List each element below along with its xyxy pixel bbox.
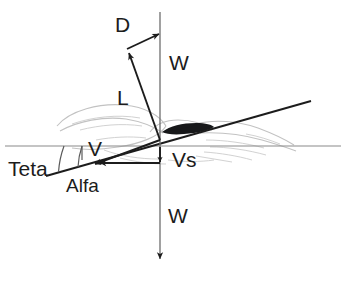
left-wing-feather-streak-2: [80, 125, 142, 130]
weight-lower-label: W: [168, 204, 188, 227]
drag-vector: [127, 34, 159, 49]
lift-vector: [129, 53, 160, 140]
right-wing-lower-edge: [200, 133, 296, 151]
left-wing-upper-edge: [57, 105, 166, 126]
force-diagram-figure: D W L V Vs W Teta Alfa: [0, 0, 346, 281]
velocity-label: V: [88, 137, 102, 160]
drag-label: D: [115, 13, 130, 36]
velocity-vector: [95, 140, 160, 164]
weight-upper-label: W: [169, 51, 189, 74]
theta-label: Teta: [8, 157, 48, 180]
force-diagram-canvas: D W L V Vs W Teta Alfa: [0, 0, 346, 281]
alpha-label: Alfa: [66, 175, 99, 196]
theta-angle-arc: [59, 146, 65, 172]
left-wing-feather-streak-3: [96, 137, 146, 140]
lift-label: L: [117, 86, 129, 109]
sink-speed-label: Vs: [172, 148, 197, 171]
left-wing-lower-edge: [60, 118, 163, 133]
